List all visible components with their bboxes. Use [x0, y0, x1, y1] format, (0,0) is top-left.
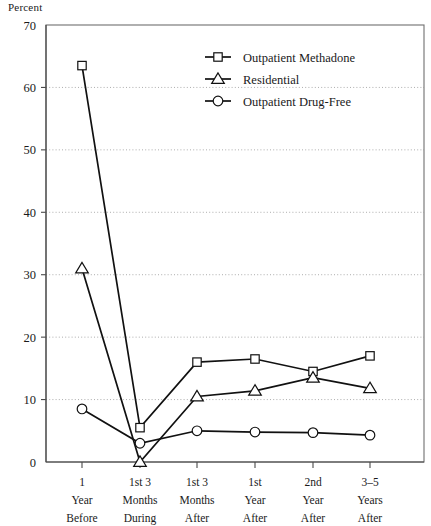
data-point-circle: [308, 428, 318, 438]
legend-marker-triangle: [212, 73, 225, 83]
x-axis-tick-label: 2nd: [304, 476, 322, 488]
legend-label-circle: Outpatient Drug-Free: [243, 95, 351, 109]
data-point-circle: [250, 427, 260, 437]
y-axis-tick-label: 70: [24, 19, 37, 33]
line-chart-plot: 0102030405060701YearBefore1st 3MonthsDur…: [0, 0, 431, 526]
legend-label-triangle: Residential: [243, 73, 300, 87]
y-axis-tick-label: 0: [30, 456, 36, 470]
x-axis-tick-label: After: [243, 512, 267, 524]
data-point-square: [251, 355, 259, 363]
data-point-triangle: [76, 262, 89, 272]
x-axis-tick-label: After: [358, 512, 382, 524]
x-axis-tick-label: Year: [302, 494, 323, 506]
x-axis-tick-label: 1st 3: [186, 476, 208, 488]
x-axis-tick-label: Years: [357, 494, 383, 506]
x-axis-tick-label: After: [185, 512, 209, 524]
x-axis-tick-label: Year: [244, 494, 265, 506]
x-axis-tick-label: After: [301, 512, 325, 524]
x-axis-tick-label: Months: [122, 494, 158, 506]
data-point-circle: [135, 438, 145, 448]
data-point-square: [366, 352, 374, 360]
x-axis-tick-label: 1st 3: [129, 476, 151, 488]
x-axis-tick-label: 1: [79, 476, 85, 488]
y-axis-tick-label: 10: [24, 393, 37, 407]
legend-label-square: Outpatient Methadone: [243, 51, 356, 65]
data-point-square: [136, 423, 144, 431]
x-axis-tick-label: Before: [66, 512, 97, 524]
plot-frame: [46, 25, 424, 462]
x-axis-tick-label: Year: [71, 494, 92, 506]
x-axis-tick-label: During: [124, 512, 157, 525]
legend-marker-circle: [213, 96, 223, 106]
data-point-circle: [192, 426, 202, 436]
y-axis-tick-label: 20: [24, 331, 37, 345]
x-axis-tick-label: Months: [179, 494, 215, 506]
data-point-square: [193, 358, 201, 366]
series-line-square: [82, 66, 370, 428]
data-point-square: [78, 61, 86, 69]
data-point-circle: [77, 404, 87, 414]
y-axis-tick-label: 40: [24, 206, 37, 220]
legend-marker-square: [214, 53, 222, 61]
x-axis-tick-label: 1st: [248, 476, 262, 488]
y-axis-tick-label: 30: [24, 268, 37, 282]
chart-container: Percent 0102030405060701YearBefore1st 3M…: [0, 0, 431, 526]
y-axis-tick-label: 50: [24, 143, 37, 157]
y-axis-tick-label: 60: [24, 81, 37, 95]
data-point-circle: [365, 430, 375, 440]
x-axis-tick-label: 3–5: [361, 476, 379, 488]
